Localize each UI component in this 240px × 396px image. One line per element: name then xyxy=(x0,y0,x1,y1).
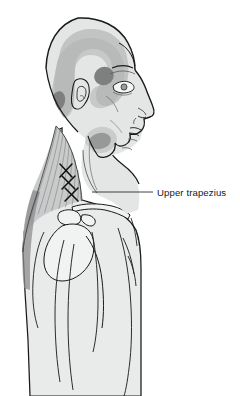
anatomy-illustration: Upper trapezius xyxy=(0,0,240,396)
label-text-upper-trapezius: Upper trapezius xyxy=(157,187,226,198)
anatomical-figure: Upper trapezius xyxy=(0,0,240,396)
acromion xyxy=(58,210,81,226)
iris xyxy=(121,84,127,90)
